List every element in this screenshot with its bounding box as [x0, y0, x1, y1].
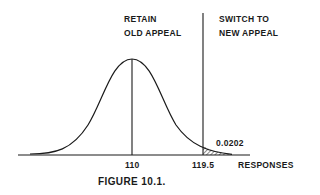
region-left-label-line1: RETAIN: [124, 15, 157, 24]
tick-mean-label: 110: [125, 161, 140, 170]
figure-caption: FIGURE 10.1.: [98, 177, 166, 187]
tick-cutoff-label: 119.5: [192, 161, 214, 170]
region-right-label-line2: NEW APPEAL: [219, 29, 278, 38]
x-axis-label: RESPONSES: [238, 161, 294, 170]
normal-curve: [30, 59, 232, 154]
region-right-label-line1: SWITCH TO: [219, 15, 269, 24]
region-left-label-line2: OLD APPEAL: [124, 29, 181, 38]
tail-probability-label: 0.0202: [216, 139, 244, 148]
